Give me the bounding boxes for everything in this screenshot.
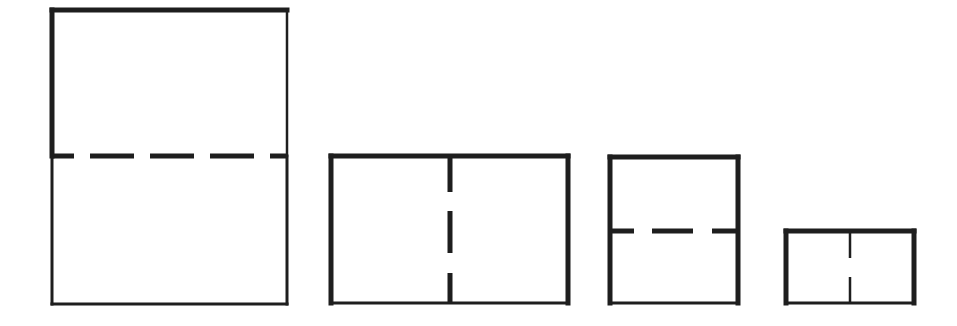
tall-rectangle-horizontal-fold <box>52 10 287 304</box>
square-horizontal-fold <box>610 157 738 303</box>
folding-diagram: Rectangle folding diagram <box>0 0 957 326</box>
diagram-canvas: Rectangle folding diagram <box>0 0 957 326</box>
wide-rectangle-vertical-fold <box>331 156 568 303</box>
small-rectangle-vertical-fold <box>786 231 914 303</box>
